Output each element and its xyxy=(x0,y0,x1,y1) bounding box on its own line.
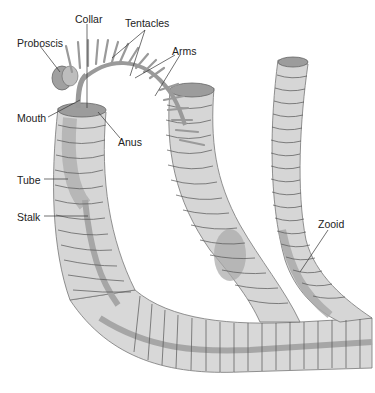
right-tube xyxy=(272,57,372,322)
label-zooid: Zooid xyxy=(318,219,344,230)
label-anus: Anus xyxy=(118,137,142,148)
pterobranch-diagram xyxy=(0,0,375,393)
label-mouth: Mouth xyxy=(17,113,46,124)
left-tube xyxy=(54,103,135,305)
label-tube: Tube xyxy=(17,175,41,186)
label-collar: Collar xyxy=(75,14,102,25)
label-stalk: Stalk xyxy=(17,212,40,223)
label-tentacles: Tentacles xyxy=(125,18,169,29)
label-arms: Arms xyxy=(172,46,197,57)
label-proboscis: Proboscis xyxy=(17,38,63,49)
